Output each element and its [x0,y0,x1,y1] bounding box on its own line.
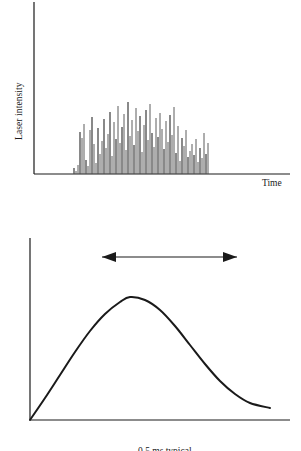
flashlamp-panel-svg [0,200,301,451]
laser-x-axis-label: Time [262,178,282,188]
flashlamp-pulse-curve [30,297,270,420]
laser-spike-train [74,102,208,174]
arrow-head-left-icon [102,252,116,262]
laser-y-axis-label: Laser intensity [14,82,24,140]
duration-annotation-label: 0.5 ms typical [138,446,192,451]
arrow-head-right-icon [223,252,237,262]
figure-laser-flashlamp-pulses: Laser intensity Time 0.5 ms typical Flas… [0,0,301,451]
panel-flashlamp-intensity: 0.5 ms typical Flashlamp intensity Time [0,200,301,451]
panel-laser-intensity: Laser intensity Time [0,0,301,200]
duration-annotation-arrow [102,252,237,262]
laser-panel-svg [0,0,301,200]
